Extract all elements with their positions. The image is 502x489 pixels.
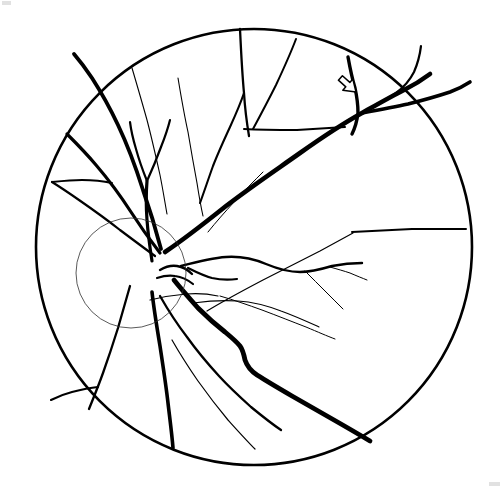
- top-left-scan-mark: [2, 1, 11, 5]
- bottom-right-scan-mark: [489, 482, 500, 486]
- diagram-background: [0, 0, 502, 489]
- fundus-diagram-root: Retinal fundus schematic drawing: [0, 0, 502, 489]
- fundus-diagram-canvas: Retinal fundus schematic drawing: [0, 0, 502, 489]
